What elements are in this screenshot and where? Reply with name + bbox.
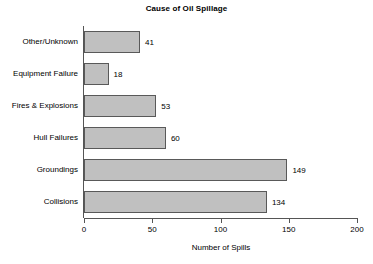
x-axis-tick-label: 50	[148, 225, 157, 234]
category-label: Equipment Failure	[0, 69, 78, 78]
bar-value-label: 53	[161, 102, 170, 111]
category-label: Groundings	[0, 165, 78, 174]
bar-value-label: 60	[171, 134, 180, 143]
bar-value-label: 18	[114, 70, 123, 79]
category-label: Fires & Explosions	[0, 101, 78, 110]
bar	[84, 31, 140, 53]
x-axis-tick	[357, 218, 358, 223]
bar-value-label: 134	[272, 198, 285, 207]
x-axis-tick	[84, 218, 85, 223]
bar-row: 60	[84, 127, 357, 149]
x-axis-tick	[152, 218, 153, 223]
chart-title: Cause of Oil Spillage	[0, 4, 373, 13]
bar-row: 53	[84, 95, 357, 117]
x-axis-tick	[289, 218, 290, 223]
x-axis-tick-label: 150	[282, 225, 295, 234]
bar-value-label: 41	[145, 38, 154, 47]
bar	[84, 191, 267, 213]
bar-row: 134	[84, 191, 357, 213]
bar-chart: Cause of Oil Spillage 41185360149134 Oth…	[0, 0, 373, 264]
x-axis-tick-label: 200	[350, 225, 363, 234]
bar	[84, 63, 109, 85]
bar	[84, 95, 156, 117]
category-label: Hull Failures	[0, 133, 78, 142]
bar-row: 41	[84, 31, 357, 53]
category-label: Other/Unknown	[0, 37, 78, 46]
bar	[84, 127, 166, 149]
plot-area	[84, 26, 357, 218]
x-axis-tick-label: 100	[214, 225, 227, 234]
x-axis-tick	[221, 218, 222, 223]
bar-value-label: 149	[292, 166, 305, 175]
bar-row: 18	[84, 63, 357, 85]
x-axis-title: Number of Spills	[84, 243, 358, 252]
bar	[84, 159, 287, 181]
bar-row: 149	[84, 159, 357, 181]
x-axis-tick-label: 0	[82, 225, 86, 234]
category-label: Collisions	[0, 197, 78, 206]
